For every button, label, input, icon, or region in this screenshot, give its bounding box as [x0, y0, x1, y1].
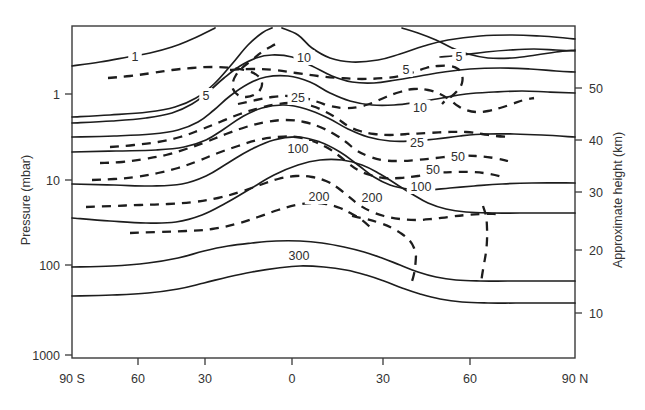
bottom-tick-label-2: 30 [198, 372, 212, 386]
left-tick-label-1: 10 [46, 174, 60, 188]
solid-contour-L7 [72, 266, 575, 303]
contour-label-dashed-50-10: 50 [426, 163, 440, 177]
bottom-axis-tickmarks [138, 358, 470, 365]
solid-contour-L6 [72, 241, 575, 281]
right-tick-label-3: 20 [589, 244, 603, 258]
contour-label-dashed-10-6: 10 [413, 101, 427, 115]
contour-label-solid-5-4: 5 [456, 50, 463, 64]
left-tick-label-3: 1000 [32, 349, 60, 363]
y-axis-title: Pressure (mbar) [19, 155, 33, 245]
right-axis-tick-labels: 5040302010 [589, 82, 603, 321]
contour-label-solid-100-7: 100 [288, 142, 309, 156]
right-tick-label-0: 50 [589, 82, 603, 96]
bottom-tick-label-4: 30 [376, 372, 390, 386]
bottom-tick-label-5: 60 [463, 372, 477, 386]
contour-label-solid-50-9: 50 [451, 150, 465, 164]
contour-label-dashed-25-8: 25 [410, 136, 424, 150]
dashed-contour-200d [130, 203, 370, 233]
solid-contour-group [72, 28, 575, 303]
right-axis-tickmarks [575, 88, 582, 313]
left-axis-tick-labels: 1101001000 [32, 88, 60, 363]
contour-label-dashed-5-5: 5 [403, 63, 410, 77]
solid-contour-1 [72, 28, 215, 66]
chart-canvas: 1101001000 5040302010 90 S60300306090 N … [0, 0, 645, 410]
bottom-tick-label-3: 0 [289, 372, 296, 386]
contour-label-dashed-100-11: 100 [411, 180, 432, 194]
dashed-contour-200b [352, 216, 416, 256]
dashed-contour-5b [230, 66, 463, 104]
dashed-contour-v2 [481, 206, 487, 284]
contour-chart-figure: 1101001000 5040302010 90 S60300306090 N … [0, 0, 645, 410]
contour-label-solid-1-0: 1 [132, 50, 139, 64]
right-tick-label-4: 10 [589, 307, 603, 321]
left-tick-label-0: 1 [53, 88, 60, 102]
contour-label-dashed-200-13: 200 [362, 191, 383, 205]
contour-label-solid-10-2: 10 [297, 51, 311, 65]
bottom-tick-label-0: 90 S [59, 372, 85, 386]
bottom-tick-label-6: 90 N [562, 372, 588, 386]
left-axis-tickmarks [65, 94, 72, 355]
y2-axis-title: Approximate height (km) [611, 132, 625, 268]
solid-contour-L4 [72, 137, 575, 190]
right-tick-label-1: 40 [589, 134, 603, 148]
contour-label-dashed-200-12: 200 [309, 190, 330, 204]
contour-label-solid-25-3: 25 [291, 91, 305, 105]
left-tick-label-2: 100 [39, 259, 60, 273]
bottom-axis-tick-labels: 90 S60300306090 N [59, 372, 588, 386]
contour-label-solid-300-14: 300 [289, 249, 310, 263]
solid-contour-10 [282, 28, 575, 62]
contour-label-dashed-5-1: 5 [203, 89, 210, 103]
right-tick-label-2: 30 [589, 186, 603, 200]
solid-contour-5t [402, 28, 575, 59]
bottom-tick-label-1: 60 [131, 372, 145, 386]
